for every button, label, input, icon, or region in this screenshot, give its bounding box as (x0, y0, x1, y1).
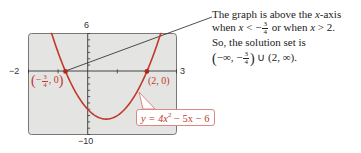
ymax-label: 6 (84, 20, 89, 30)
solution-caption: The graph is above the x-axis when x < −… (212, 8, 360, 66)
xmax-label: 3 (180, 66, 185, 76)
point-left-intercept (63, 69, 68, 74)
caption-line-1: The graph is above the x-axis (212, 8, 360, 21)
right-intercept-label: (2, 0) (148, 75, 170, 86)
point-right-intercept (145, 69, 150, 74)
figure: 6 −10 −2 3 (−34, 0) (2, 0) y = 4x2 − 5x … (0, 0, 361, 153)
caption-solution-set: (−∞, −34) ∪ (2, ∞). (212, 51, 360, 66)
ymin-label: −10 (78, 136, 93, 146)
caption-line-2: when x < −34 or when x > 2. (212, 21, 360, 36)
equation-label: y = 4x2 − 5x − 6 (136, 109, 215, 126)
left-intercept-label: (−34, 0) (31, 73, 63, 89)
xmin-label: −2 (9, 66, 19, 76)
caption-line-3: So, the solution set is (212, 36, 360, 49)
